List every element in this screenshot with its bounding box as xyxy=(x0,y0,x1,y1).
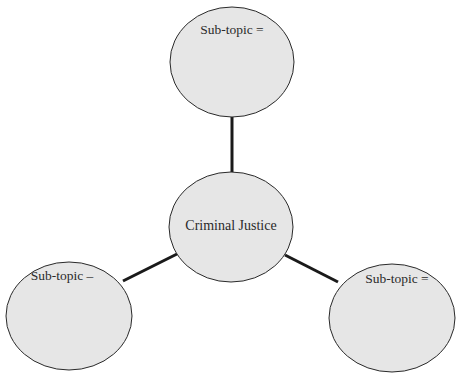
connector-bottom-left xyxy=(123,254,177,281)
concept-map-canvas xyxy=(0,0,463,373)
central-topic-label: Criminal Justice xyxy=(185,218,276,234)
subtopic-label-bottom-right: Sub-topic = xyxy=(365,271,429,287)
subtopic-label-top: Sub-topic = xyxy=(200,22,264,38)
connector-bottom-right xyxy=(285,255,338,282)
subtopic-label-bottom-left: Sub-topic – xyxy=(31,268,94,284)
